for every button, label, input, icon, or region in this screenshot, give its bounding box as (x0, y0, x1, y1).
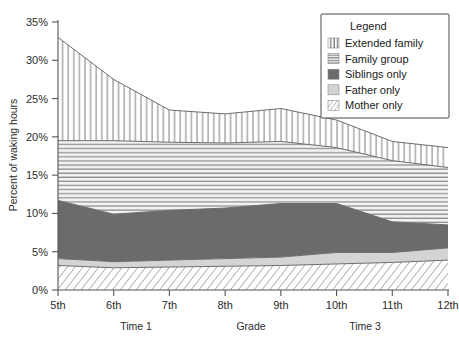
y-tick-label: 20% (26, 131, 48, 143)
y-tick-label: 0% (32, 284, 48, 296)
x-tick-label: 6th (106, 299, 121, 311)
chart-figure: 0%5%10%15%20%25%30%35% 5th6th7th8th9th10… (0, 0, 459, 347)
y-tick-label: 10% (26, 207, 48, 219)
time1-annotation: Time 1 (120, 320, 152, 332)
legend-title: Legend (350, 20, 387, 32)
vertical-lines-swatch (328, 38, 339, 48)
x-tick-label: 10th (326, 299, 347, 311)
legend-item-label: Siblings only (345, 68, 407, 80)
legend-item-label: Father only (345, 84, 401, 96)
horizontal-lines-swatch (328, 54, 339, 64)
legend: Legend Extended familyFamily groupSiblin… (321, 14, 449, 118)
legend-item-label: Family group (345, 53, 409, 65)
y-tick-label: 5% (32, 246, 48, 258)
solid-dark-swatch (328, 69, 339, 79)
stacked-area-chart: 0%5%10%15%20%25%30%35% 5th6th7th8th9th10… (0, 0, 459, 347)
x-tick-label: 12th (437, 299, 458, 311)
diagonal-lines-swatch (328, 100, 339, 110)
x-tick-label: 11th (382, 299, 403, 311)
legend-item-label: Extended family (345, 37, 424, 49)
x-tick-label: 5th (50, 299, 65, 311)
x-tick-label: 8th (217, 299, 232, 311)
solid-light-swatch (328, 85, 339, 95)
y-tick-label: 30% (26, 54, 48, 66)
y-axis: 0%5%10%15%20%25%30%35% (26, 16, 58, 296)
x-axis-title: Grade (236, 320, 265, 332)
x-axis: 5th6th7th8th9th10th11th12th (50, 290, 458, 311)
y-axis-title: Percent of waking hours (7, 99, 19, 212)
y-tick-label: 25% (26, 93, 48, 105)
legend-item-label: Mother only (345, 99, 403, 111)
y-tick-label: 15% (26, 169, 48, 181)
time3-annotation: Time 3 (349, 320, 381, 332)
x-tick-label: 7th (162, 299, 177, 311)
x-tick-label: 9th (273, 299, 288, 311)
y-tick-label: 35% (26, 16, 48, 28)
